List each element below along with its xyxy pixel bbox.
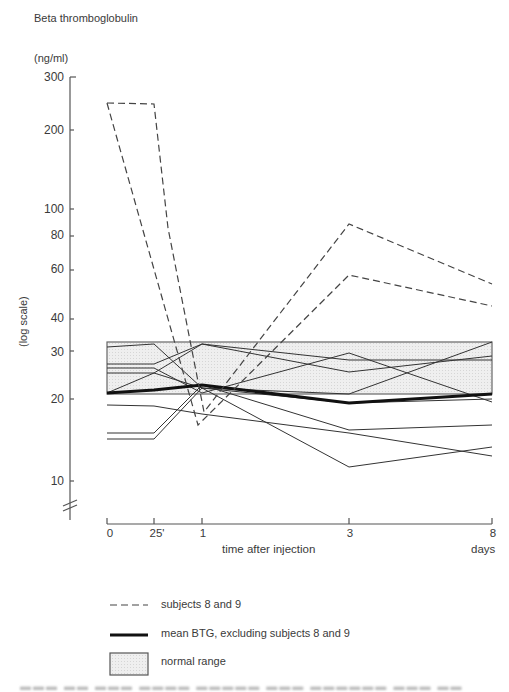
- normal-range-band: [107, 342, 492, 394]
- x-axis: [107, 518, 492, 524]
- clipped-caption: ▬▬▬ ▬▬ ▬▬▬ ▬▬▬▬ ▬▬▬▬▬ ▬▬▬ ▬▬▬▬▬▬ ▬▬▬ ▬▬: [20, 680, 463, 692]
- legend-box-swatch: [110, 653, 148, 675]
- legend-subjects-8-9: subjects 8 and 9: [161, 598, 241, 610]
- y-axis: [63, 77, 77, 520]
- legend-mean-btg: mean BTG, excluding subjects 8 and 9: [161, 627, 350, 639]
- legend-normal-range: normal range: [161, 655, 226, 667]
- chart-plot: [0, 0, 509, 692]
